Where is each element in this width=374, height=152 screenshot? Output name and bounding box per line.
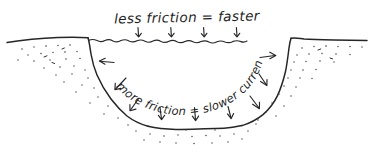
left-ground-surface-line [7, 37, 88, 42]
left-bank-wall [88, 38, 148, 127]
surface-arrow-4 [234, 28, 240, 37]
surface-arrow-1 [136, 28, 142, 37]
surface-arrow-group [136, 28, 240, 37]
diagram-svg: less friction = faster [0, 0, 374, 152]
surface-arrow-2 [169, 28, 175, 37]
diagram-canvas: less friction = faster [0, 0, 374, 152]
water-surface-line [89, 39, 247, 43]
bed-arrow-right-1 [250, 96, 260, 109]
surface-friction-label: less friction = faster [114, 7, 261, 26]
right-ground-surface-line [291, 38, 367, 41]
bed-arrow-left-1 [99, 58, 114, 64]
bed-arrow-right-2 [259, 74, 267, 86]
channel-bed-line [148, 126, 242, 130]
surface-arrow-3 [201, 28, 207, 37]
bed-arrow-bottom-3 [228, 107, 234, 119]
left-ground-stipple [17, 44, 118, 118]
